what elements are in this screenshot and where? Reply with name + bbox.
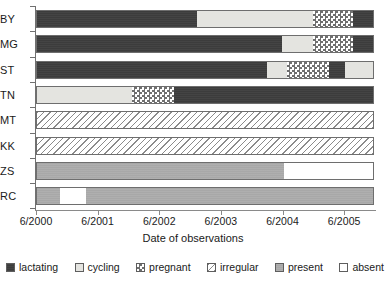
- legend-swatch-pregnant-icon: [136, 263, 145, 272]
- x-axis-tick-label: 6/2005: [317, 216, 371, 227]
- bar-segment-pregnant: [132, 86, 174, 104]
- legend-swatch-absent-icon: [339, 263, 348, 272]
- chart-container: BYMGSTTNMTKKZSRC 6/20006/20016/20026/200…: [0, 0, 386, 285]
- bar-segment-irregular: [36, 111, 374, 129]
- bar-segment-cycling: [197, 10, 312, 28]
- y-axis-tick: [30, 6, 35, 7]
- bar-segment-cycling: [282, 35, 313, 53]
- bar-segment-lactating: [36, 61, 267, 79]
- x-axis-tick-label: 6/2000: [9, 216, 63, 227]
- legend-label: present: [288, 262, 323, 273]
- y-axis-tick: [30, 158, 35, 159]
- y-axis-label-mt: MT: [0, 115, 29, 126]
- y-axis-tick: [30, 208, 35, 209]
- y-axis-tick: [30, 107, 35, 108]
- bar-segment-pregnant: [287, 61, 329, 79]
- y-axis-label-by: BY: [0, 14, 29, 25]
- legend-item-absent: absent: [339, 262, 384, 273]
- legend-swatch-irregular-icon: [207, 263, 216, 272]
- bar-segment-present: [36, 187, 60, 205]
- bar-segment-lactating: [36, 10, 197, 28]
- bar-segment-absent: [284, 162, 373, 180]
- bar-segment-lactating: [353, 10, 374, 28]
- y-axis-tick: [30, 82, 35, 83]
- legend-swatch-cycling-icon: [75, 263, 84, 272]
- legend-label: cycling: [88, 262, 120, 273]
- legend-label: pregnant: [149, 262, 190, 273]
- bar-segment-pregnant: [313, 10, 353, 28]
- bar-segment-cycling: [345, 61, 373, 79]
- legend-item-present: present: [275, 262, 323, 273]
- bar-segment-cycling: [267, 61, 288, 79]
- y-axis-label-rc: RC: [0, 191, 29, 202]
- y-axis-tick: [30, 183, 35, 184]
- legend-label: lactating: [19, 262, 58, 273]
- bar-segment-present: [36, 162, 284, 180]
- y-axis-label-st: ST: [0, 65, 29, 76]
- y-axis-tick: [30, 57, 35, 58]
- x-axis-line: [35, 210, 376, 211]
- y-axis-label-mg: MG: [0, 39, 29, 50]
- y-axis-tick: [30, 31, 35, 32]
- legend-item-lactating: lactating: [6, 262, 58, 273]
- chart-legend: lactatingcyclingpregnantirregularpresent…: [6, 258, 384, 276]
- legend-swatch-lactating-icon: [6, 263, 15, 272]
- bar-segment-lactating: [174, 86, 374, 104]
- bar-segment-present: [86, 187, 374, 205]
- bar-segment-pregnant: [313, 35, 353, 53]
- y-axis-label-tn: TN: [0, 90, 29, 101]
- bar-segment-irregular: [36, 137, 374, 155]
- y-axis-label-kk: KK: [0, 141, 29, 152]
- bar-segment-cycling: [36, 86, 132, 104]
- x-axis-tick-label: 6/2002: [132, 216, 186, 227]
- bar-segment-lactating: [329, 61, 345, 79]
- bar-segment-absent: [60, 187, 86, 205]
- legend-label: absent: [352, 262, 384, 273]
- legend-label: irregular: [220, 262, 259, 273]
- y-axis-tick: [30, 133, 35, 134]
- y-axis-label-zs: ZS: [0, 166, 29, 177]
- legend-swatch-present-icon: [275, 263, 284, 272]
- x-axis-title: Date of observations: [0, 232, 386, 244]
- legend-item-cycling: cycling: [75, 262, 120, 273]
- legend-item-irregular: irregular: [207, 262, 259, 273]
- x-axis-tick-label: 6/2004: [256, 216, 310, 227]
- bar-segment-lactating: [353, 35, 374, 53]
- x-axis-tick-label: 6/2003: [194, 216, 248, 227]
- x-axis-tick-label: 6/2001: [71, 216, 125, 227]
- legend-item-pregnant: pregnant: [136, 262, 190, 273]
- bar-segment-lactating: [36, 35, 282, 53]
